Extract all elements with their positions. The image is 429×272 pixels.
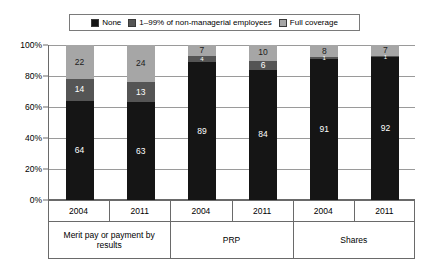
bar-segment[interactable]: 64 (66, 101, 94, 200)
x-axis-year-label: 2011 (232, 201, 293, 221)
bar-segment-value-label: 7 (200, 46, 205, 55)
x-axis-year-text: 2011 (251, 206, 273, 216)
stacked-bar[interactable]: 9217 (371, 45, 399, 200)
y-axis-tick-label: 60% (25, 103, 42, 112)
x-axis-group-label: Shares (293, 222, 415, 258)
bar-segment[interactable]: 1 (371, 56, 399, 58)
legend-item-none: None (91, 18, 121, 27)
chart-figure: None 1–99% of non-managerial employees F… (0, 0, 429, 272)
legend-item-partial: 1–99% of non-managerial employees (128, 18, 272, 27)
legend-label-full: Full coverage (290, 18, 338, 27)
bar-segment-value-label: 64 (75, 146, 84, 155)
bar-segment[interactable]: 7 (371, 45, 399, 56)
x-axis-divider (170, 201, 171, 221)
x-axis-edge (48, 201, 49, 221)
x-axis-divider (232, 201, 233, 221)
stacked-bar[interactable]: 9118 (310, 45, 338, 200)
x-axis-year-label: 2004 (293, 201, 354, 221)
x-axis: 200420112004201120042011 Merit pay or pa… (48, 200, 415, 258)
y-axis-tick-label: 0% (30, 196, 42, 205)
x-axis-edge (414, 222, 415, 258)
bar-segment-value-label: 92 (381, 124, 390, 133)
stacked-bar[interactable]: 641422 (66, 45, 94, 200)
bar-segment[interactable]: 63 (127, 102, 155, 200)
bar-segment[interactable]: 91 (310, 59, 338, 200)
x-axis-year-text: 2011 (373, 206, 395, 216)
bar-segment[interactable]: 14 (66, 79, 94, 101)
bar-segment-value-label: 22 (75, 58, 84, 67)
x-axis-year-text: 2004 (312, 206, 335, 216)
bar-segment-value-label: 4 (200, 56, 203, 62)
legend-swatch-none (91, 19, 99, 27)
bar-segment-value-label: 13 (136, 88, 145, 97)
bar-segment[interactable]: 92 (371, 57, 399, 200)
x-axis-divider (170, 222, 171, 258)
x-axis-divider (293, 201, 294, 221)
stacked-bar[interactable]: 84610 (249, 45, 277, 200)
x-axis-divider (293, 222, 294, 258)
bar-segment-value-label: 91 (320, 125, 329, 134)
bar-segment-value-label: 6 (261, 61, 266, 70)
bar-segment-value-label: 89 (197, 127, 206, 136)
x-axis-group-row: Merit pay or payment by resultsPRPShares (48, 222, 415, 259)
x-axis-year-label: 2011 (109, 201, 170, 221)
x-axis-group-text: Shares (338, 235, 369, 245)
bar-segment[interactable]: 10 (249, 45, 277, 61)
y-axis-tick-label: 80% (25, 72, 42, 81)
x-axis-year-label: 2004 (48, 201, 109, 221)
x-axis-year-label: 2011 (354, 201, 415, 221)
x-axis-group-text: PRP (221, 235, 242, 245)
bar-segment-value-label: 1 (323, 55, 326, 61)
bar-segment-value-label: 84 (258, 130, 267, 139)
x-axis-divider (109, 201, 110, 221)
x-axis-year-text: 2004 (67, 206, 90, 216)
bar-segment-value-label: 7 (383, 46, 388, 55)
x-axis-year-label: 2004 (170, 201, 231, 221)
x-axis-year-text: 2004 (189, 206, 212, 216)
stacked-bar[interactable]: 631324 (127, 45, 155, 200)
chart-legend: None 1–99% of non-managerial employees F… (69, 14, 360, 31)
x-axis-year-text: 2011 (129, 206, 151, 216)
y-axis-tick-label: 40% (25, 134, 42, 143)
bar-series-container: 64142263132489478461091189217 (49, 45, 415, 200)
bar-segment-value-label: 14 (75, 85, 84, 94)
bar-segment[interactable]: 7 (188, 45, 216, 56)
legend-swatch-full (279, 19, 287, 27)
bar-segment-value-label: 24 (136, 59, 145, 68)
bar-segment[interactable]: 6 (249, 61, 277, 70)
x-axis-edge (48, 222, 49, 258)
legend-item-full: Full coverage (279, 18, 338, 27)
y-axis: 0%20%40%60%80%100% (0, 45, 48, 200)
x-axis-group-label: PRP (170, 222, 292, 258)
bar-segment[interactable]: 4 (188, 56, 216, 62)
bar-segment[interactable]: 22 (66, 45, 94, 79)
bar-segment[interactable]: 24 (127, 45, 155, 82)
stacked-bar[interactable]: 8947 (188, 45, 216, 200)
y-axis-tick-label: 100% (20, 41, 42, 50)
bar-segment-value-label: 63 (136, 147, 145, 156)
bar-segment[interactable]: 84 (249, 70, 277, 200)
x-axis-edge (414, 201, 415, 221)
x-axis-group-label: Merit pay or payment by results (48, 222, 170, 258)
bar-segment-value-label: 8 (322, 47, 327, 56)
bar-segment[interactable]: 8 (310, 45, 338, 57)
legend-swatch-partial (128, 19, 136, 27)
plot-area: 64142263132489478461091189217 (48, 45, 415, 200)
x-axis-divider (354, 201, 355, 221)
legend-label-none: None (102, 18, 121, 27)
bar-segment[interactable]: 1 (310, 57, 338, 59)
bar-segment-value-label: 10 (258, 48, 267, 57)
bar-segment[interactable]: 89 (188, 62, 216, 200)
legend-label-partial: 1–99% of non-managerial employees (139, 18, 272, 27)
x-axis-group-text: Merit pay or payment by results (48, 230, 170, 250)
y-axis-tick-label: 20% (25, 165, 42, 174)
x-axis-year-row: 200420112004201120042011 (48, 201, 415, 222)
bar-segment[interactable]: 13 (127, 82, 155, 102)
